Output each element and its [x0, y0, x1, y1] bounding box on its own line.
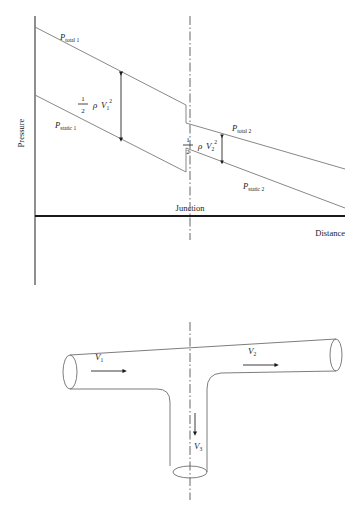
pressure-plot: Ptotal 1 Pstatic 1 Ptotal 2 Pstatic 2	[16, 16, 345, 285]
svg-text:V22: V22	[206, 139, 217, 152]
dyn-1-denominator: 2	[81, 107, 85, 115]
svg-text:V2: V2	[248, 346, 257, 357]
v3-subscript: 3	[200, 446, 203, 452]
svg-text:V1: V1	[95, 352, 104, 363]
dyn-2-rho: ρ	[197, 141, 203, 151]
svg-text:Pstatic 2: Pstatic 2	[242, 181, 264, 192]
dyn-1-velocity-subscript: 1	[107, 105, 110, 111]
label-p-total-1: Ptotal 1	[59, 32, 80, 43]
v2-subscript: 2	[254, 351, 257, 357]
dyn-1-velocity-exponent: 2	[109, 98, 112, 104]
velocity-label-v3: V3	[194, 413, 203, 452]
dyn-2-denominator: 2	[186, 148, 190, 156]
dyn-2-velocity-subscript: 2	[212, 146, 215, 152]
v1-subscript: 1	[101, 357, 104, 363]
label-p-static-2: Pstatic 2	[242, 181, 264, 192]
pipe-wall-top	[70, 339, 336, 355]
junction-label: Junction	[176, 203, 206, 213]
svg-text:V12: V12	[101, 98, 112, 111]
y-axis-label: Pressure	[16, 118, 26, 147]
dynamic-pressure-label-1: 1 2 ρ V12	[78, 95, 112, 115]
pipe-schematic: V1 V2 V3	[63, 322, 342, 500]
svg-text:Ptotal 2: Ptotal 2	[231, 123, 252, 134]
dyn-1-rho: ρ	[92, 100, 98, 110]
x-axis-label: Distance	[315, 228, 345, 238]
pressure-junction-figure: Ptotal 1 Pstatic 1 Ptotal 2 Pstatic 2	[0, 0, 361, 510]
p-total-2-subscript: total 2	[237, 128, 251, 134]
dyn-1-numerator: 1	[81, 95, 85, 103]
p-total-1-subscript: total 1	[65, 37, 79, 43]
dyn-2-velocity-exponent: 2	[214, 139, 217, 145]
svg-text:Ptotal 1: Ptotal 1	[59, 32, 80, 43]
line-p-static-2	[186, 148, 345, 208]
dyn-2-numerator: 1	[186, 136, 190, 144]
line-p-total-1	[35, 27, 186, 105]
svg-text:V3: V3	[194, 441, 203, 452]
velocity-label-v1: V1	[91, 352, 125, 371]
p-static-1-subscript: static 1	[60, 125, 76, 131]
svg-text:Pstatic 1: Pstatic 1	[54, 120, 76, 131]
line-p-static-1	[35, 95, 186, 172]
label-p-total-2: Ptotal 2	[231, 123, 252, 134]
figure-canvas: Ptotal 1 Pstatic 1 Ptotal 2 Pstatic 2	[0, 0, 361, 510]
velocity-label-v2: V2	[243, 346, 277, 365]
label-p-static-1: Pstatic 1	[54, 120, 76, 131]
pipe-wall-lower-right	[207, 371, 336, 472]
pipe-wall-lower-left	[70, 389, 170, 466]
p-static-2-subscript: static 2	[248, 186, 264, 192]
inlet-pipe-end-ellipse	[63, 355, 77, 389]
outlet-pipe-end-ellipse	[330, 339, 342, 371]
